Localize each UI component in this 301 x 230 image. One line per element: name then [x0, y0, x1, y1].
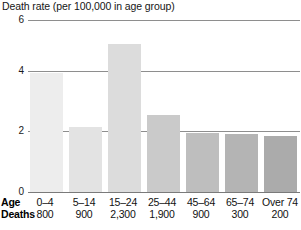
bar-15-24[interactable]: [108, 44, 141, 192]
chart-title: Death rate (per 100,000 in age group): [2, 0, 175, 13]
age-cell-6: Over 74: [259, 196, 301, 208]
bar-45-64[interactable]: [186, 133, 219, 192]
age-row-label: Age: [1, 196, 20, 208]
age-cell-1: 5–14: [65, 196, 103, 208]
bar-0-4[interactable]: [30, 73, 63, 192]
deaths-cell-0: 800: [26, 208, 64, 220]
age-cell-2: 15–24: [104, 196, 142, 208]
deaths-cell-6: 200: [259, 208, 301, 220]
y-tick-label-4: 4: [0, 66, 24, 76]
bar-series: [28, 14, 300, 192]
deaths-cell-5: 300: [221, 208, 259, 220]
age-cell-5: 65–74: [221, 196, 259, 208]
age-cell-4: 45–64: [182, 196, 220, 208]
bar-5-14[interactable]: [69, 127, 102, 192]
plot-area: 6 4 2 0: [28, 14, 300, 193]
bar-65-74[interactable]: [225, 134, 258, 192]
deaths-cell-2: 2,300: [104, 208, 142, 220]
y-tick-label-6: 6: [0, 15, 24, 25]
axis-baseline: [28, 192, 300, 193]
death-rate-bar-chart: Death rate (per 100,000 in age group) 6 …: [0, 0, 301, 230]
deaths-cell-3: 1,900: [143, 208, 181, 220]
category-label-table: Age Deaths 0–4 5–14 15–24 25–44 45–64 65…: [0, 194, 301, 228]
age-cell-0: 0–4: [26, 196, 64, 208]
bar-over-74[interactable]: [264, 136, 297, 192]
bar-25-44[interactable]: [147, 115, 180, 192]
deaths-cell-1: 900: [65, 208, 103, 220]
deaths-cell-4: 900: [182, 208, 220, 220]
y-tick-label-2: 2: [0, 126, 24, 136]
age-cell-3: 25–44: [143, 196, 181, 208]
